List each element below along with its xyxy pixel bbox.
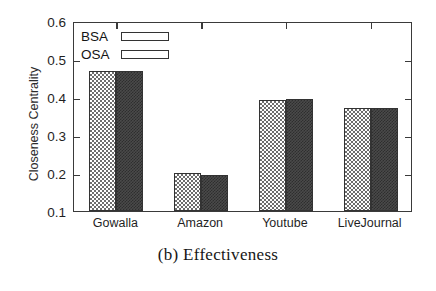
y-tick-label: 0.6 [26,15,66,30]
bar-group [89,71,143,211]
y-axis-tick [405,137,411,138]
legend-label: OSA [81,48,114,62]
bar-osa-amazon [201,175,228,211]
bar-bsa-livejournal [344,108,371,211]
figure-caption: (b) Effectiveness [0,245,436,265]
y-tick-label: 0.5 [26,53,66,68]
figure-effectiveness: Closeness Centrality 0.10.20.30.40.50.6 … [0,0,436,291]
bar-group [344,108,398,211]
y-axis-tick [74,99,80,100]
legend-swatch-osa [121,50,169,59]
y-axis-tick [74,61,80,62]
y-axis-tick [74,175,80,176]
y-axis-tick [405,175,411,176]
bar-bsa-youtube [259,100,286,211]
bar-group [259,99,313,211]
y-axis-tick [405,99,411,100]
bar-osa-gowalla [116,71,143,211]
bar-bsa-gowalla [89,71,116,211]
bar-osa-youtube [286,99,313,211]
x-axis-tick [286,23,287,29]
legend-swatch-bsa [121,32,169,41]
y-axis-tick [74,137,80,138]
legend-label: BSA [81,30,114,44]
legend-item-osa: OSA [81,46,169,63]
bar-osa-livejournal [371,108,398,211]
x-tick-label-youtube: Youtube [262,216,307,230]
plot-area: BSAOSA [73,22,412,212]
y-axis-tick [405,61,411,62]
bar-group [174,173,228,211]
y-tick-label: 0.1 [26,205,66,220]
legend: BSAOSA [79,27,172,65]
x-tick-label-gowalla: Gowalla [93,216,138,230]
bar-bsa-amazon [174,173,201,211]
x-axis-tick-labels: GowallaAmazonYoutubeLiveJournal [73,216,412,236]
x-tick-label-amazon: Amazon [177,216,223,230]
y-tick-label: 0.3 [26,129,66,144]
y-tick-label: 0.4 [26,91,66,106]
y-tick-label: 0.2 [26,167,66,182]
x-tick-label-livejournal: LiveJournal [338,216,402,230]
x-axis-tick [116,23,117,29]
x-axis-tick [371,23,372,29]
legend-item-bsa: BSA [81,28,169,45]
x-axis-tick [201,23,202,29]
